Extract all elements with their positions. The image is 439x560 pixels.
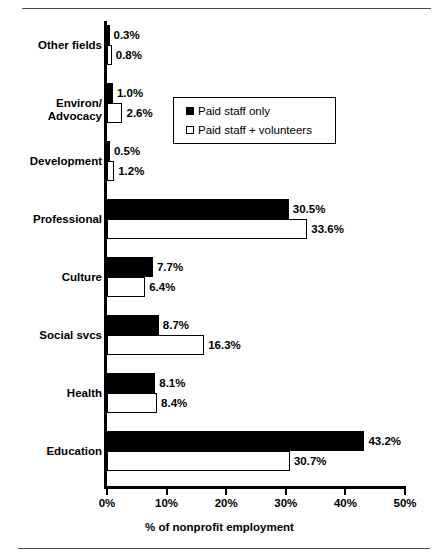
- bar-value-label: 33.6%: [308, 223, 344, 235]
- bar-value-label: 7.7%: [154, 261, 183, 273]
- bar-paid-staff-only[interactable]: [107, 141, 110, 161]
- bar-paid-staff-only[interactable]: [107, 25, 110, 45]
- bar-paid-staff-plus-volunteers[interactable]: [107, 335, 204, 355]
- bar-value-label: 30.5%: [290, 203, 326, 215]
- bar-paid-staff-plus-volunteers[interactable]: [107, 103, 122, 123]
- bar-paid-staff-only[interactable]: [107, 83, 113, 103]
- bar-value-label: 2.6%: [123, 107, 152, 119]
- bar-chart-figure: Other fieldsEnviron/ AdvocacyDevelopment…: [0, 0, 439, 560]
- x-axis-title: % of nonprofit employment: [0, 521, 439, 533]
- bar-paid-staff-only[interactable]: [107, 257, 153, 277]
- bar-value-label: 8.1%: [156, 377, 185, 389]
- filled-black-square-icon: [186, 107, 194, 115]
- bar-value-label: 0.8%: [113, 49, 142, 61]
- bar-paid-staff-only[interactable]: [107, 373, 155, 393]
- bar-value-label: 30.7%: [291, 455, 327, 467]
- legend-item-paid-staff-plus-volunteers[interactable]: Paid staff + volunteers: [186, 124, 312, 136]
- bar-row: 43.2%: [0, 431, 439, 451]
- bar-value-label: 0.3%: [111, 29, 140, 41]
- bar-row: 33.6%: [0, 219, 439, 239]
- bar-row: 1.2%: [0, 161, 439, 181]
- x-tick-label: 30%: [274, 497, 297, 509]
- legend-label-paid-staff-plus-volunteers: Paid staff + volunteers: [198, 124, 312, 136]
- bar-value-label: 8.4%: [158, 397, 187, 409]
- x-tick-label: 10%: [155, 497, 178, 509]
- bar-row: 8.7%: [0, 315, 439, 335]
- bar-value-label: 8.7%: [160, 319, 189, 331]
- legend-item-paid-staff-only[interactable]: Paid staff only: [186, 105, 270, 117]
- bar-paid-staff-plus-volunteers[interactable]: [107, 451, 290, 471]
- bar-value-label: 16.3%: [205, 339, 241, 351]
- bar-row: 8.4%: [0, 393, 439, 413]
- x-tick-mark: [225, 489, 227, 495]
- bar-row: 0.8%: [0, 45, 439, 65]
- bar-value-label: 0.5%: [111, 145, 140, 157]
- x-axis-line: [104, 486, 406, 489]
- bar-paid-staff-only[interactable]: [107, 199, 289, 219]
- x-tick-label: 20%: [215, 497, 238, 509]
- x-tick-mark: [106, 489, 108, 495]
- bar-value-label: 1.0%: [114, 87, 143, 99]
- x-tick-label: 50%: [393, 497, 416, 509]
- x-tick-mark: [404, 489, 406, 495]
- x-tick-mark: [344, 489, 346, 495]
- bar-paid-staff-plus-volunteers[interactable]: [107, 45, 112, 65]
- x-tick-label: 0%: [99, 497, 116, 509]
- bar-value-label: 43.2%: [365, 435, 401, 447]
- bar-row: 0.5%: [0, 141, 439, 161]
- bar-row: 0.3%: [0, 25, 439, 45]
- bar-paid-staff-only[interactable]: [107, 431, 364, 451]
- bar-value-label: 1.2%: [115, 165, 144, 177]
- bar-row: 8.1%: [0, 373, 439, 393]
- bar-value-label: 6.4%: [146, 281, 175, 293]
- bar-row: 7.7%: [0, 257, 439, 277]
- x-tick-mark: [166, 489, 168, 495]
- open-white-square-icon: [186, 126, 194, 134]
- bar-row: 16.3%: [0, 335, 439, 355]
- x-tick-label: 40%: [334, 497, 357, 509]
- chart-legend: Paid staff only Paid staff + volunteers: [173, 97, 336, 144]
- bar-row: 30.7%: [0, 451, 439, 471]
- bar-row: 6.4%: [0, 277, 439, 297]
- bar-paid-staff-only[interactable]: [107, 315, 159, 335]
- bar-paid-staff-plus-volunteers[interactable]: [107, 393, 157, 413]
- legend-label-paid-staff-only: Paid staff only: [198, 105, 270, 117]
- bar-row: 30.5%: [0, 199, 439, 219]
- page-rule-top: [22, 8, 431, 9]
- x-tick-mark: [285, 489, 287, 495]
- page-rule-bottom: [18, 548, 430, 549]
- bar-paid-staff-plus-volunteers[interactable]: [107, 161, 114, 181]
- bar-paid-staff-plus-volunteers[interactable]: [107, 277, 145, 297]
- bar-paid-staff-plus-volunteers[interactable]: [107, 219, 307, 239]
